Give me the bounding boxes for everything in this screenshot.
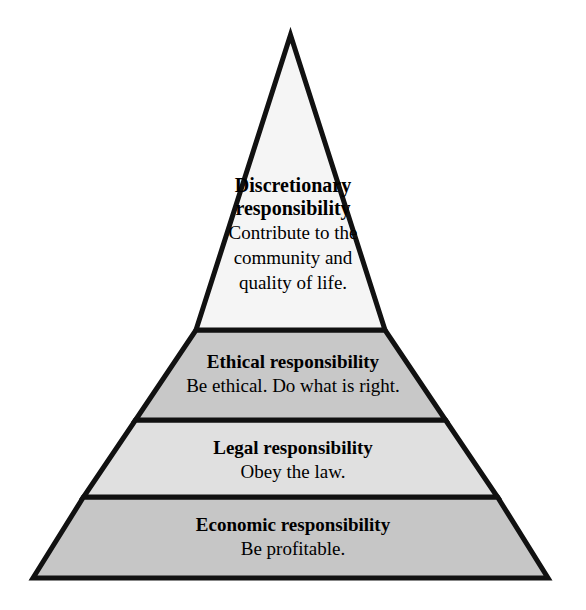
pyramid-tier-discretionary-shape <box>196 35 385 330</box>
pyramid-shape-layer <box>0 0 586 610</box>
pyramid-tier-ethical-shape <box>136 330 446 420</box>
pyramid-tier-legal-shape <box>84 420 498 497</box>
pyramid-tier-economic-shape <box>33 497 548 578</box>
pyramid-diagram: Discretionary responsibility Contribute … <box>0 0 586 610</box>
